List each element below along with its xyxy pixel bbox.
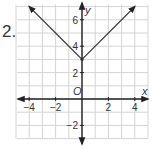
origin-label: O — [73, 85, 82, 97]
x-tick-label: −2 — [50, 102, 62, 113]
vertex-point — [80, 58, 83, 61]
y-axis-label: y — [84, 4, 92, 16]
x-tick-label: −4 — [23, 102, 35, 113]
x-tick-label: 2 — [106, 102, 112, 113]
y-tick-label: 2 — [72, 68, 78, 79]
x-tick-label: 4 — [132, 102, 138, 113]
graph: −4−224−2246xyO — [0, 0, 153, 149]
y-tick-label: −2 — [67, 120, 79, 131]
y-tick-label: 6 — [72, 15, 78, 26]
x-axis-label: x — [141, 85, 148, 97]
